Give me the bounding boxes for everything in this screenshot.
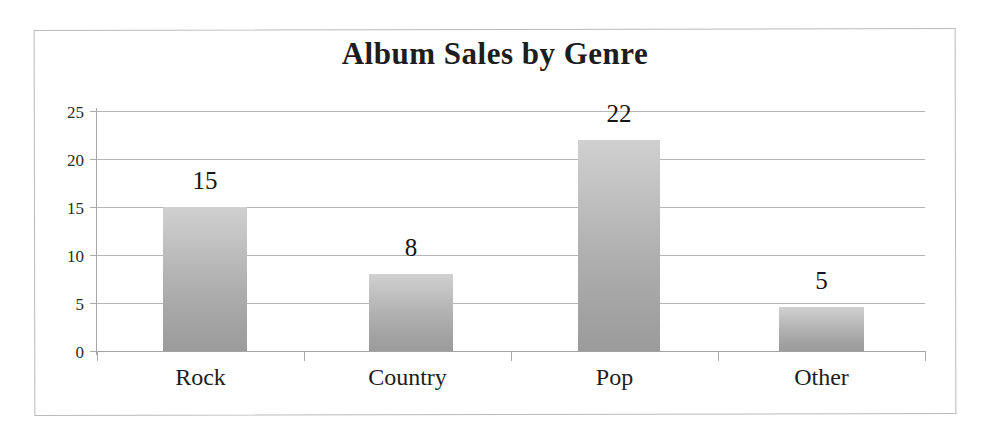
bar-value-label-rock: 15 bbox=[163, 168, 247, 193]
y-tick-label: 5 bbox=[76, 296, 85, 313]
bar-other[interactable] bbox=[779, 307, 864, 351]
bar-rock[interactable] bbox=[163, 207, 247, 351]
bar-pop[interactable] bbox=[578, 140, 660, 351]
bar-country[interactable] bbox=[369, 274, 453, 351]
y-tick-label: 0 bbox=[76, 344, 85, 361]
category-label-pop: Pop bbox=[511, 364, 718, 391]
y-tick-label: 25 bbox=[67, 104, 84, 121]
x-axis-tick bbox=[925, 351, 926, 361]
plot-area bbox=[97, 111, 925, 351]
category-label-rock: Rock bbox=[97, 364, 304, 391]
category-label-country: Country bbox=[304, 364, 511, 391]
category-label-other: Other bbox=[718, 364, 925, 391]
y-tick-label: 20 bbox=[67, 152, 84, 169]
gridline-20 bbox=[97, 159, 925, 160]
x-axis-tick bbox=[511, 351, 512, 361]
x-axis-tick bbox=[97, 351, 98, 361]
y-axis-tick-labels: 25 20 15 10 5 0 bbox=[0, 0, 84, 443]
chart-title: Album Sales by Genre bbox=[0, 36, 990, 72]
bar-value-label-other: 5 bbox=[779, 268, 864, 293]
bar-value-label-pop: 22 bbox=[578, 101, 660, 126]
x-axis-tick bbox=[304, 351, 305, 361]
y-tick-label: 10 bbox=[67, 248, 84, 265]
gridline-25 bbox=[97, 111, 925, 112]
y-tick-label: 15 bbox=[67, 200, 84, 217]
x-axis-tick bbox=[718, 351, 719, 361]
bar-value-label-country: 8 bbox=[369, 235, 453, 260]
